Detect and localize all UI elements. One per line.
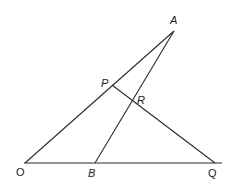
segment-PQ xyxy=(112,85,215,163)
label-Q: Q xyxy=(208,167,217,179)
segment-BA xyxy=(95,31,174,163)
label-B: B xyxy=(88,167,95,179)
label-A: A xyxy=(169,14,177,26)
segment-OA xyxy=(25,31,174,163)
geometry-diagram: A P R O B Q xyxy=(0,0,236,184)
label-R: R xyxy=(137,94,145,106)
label-P: P xyxy=(101,77,109,89)
label-O: O xyxy=(16,166,25,178)
